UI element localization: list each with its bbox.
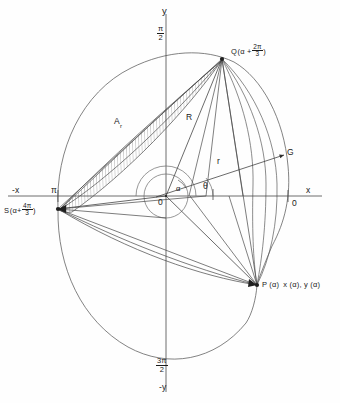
- axes-group: [8, 14, 322, 392]
- axis-label-x-left: -x: [12, 186, 19, 195]
- chord-SP: [58, 209, 257, 285]
- alpha-angle-label: α: [176, 185, 181, 193]
- axis-label-zero-right: 0: [292, 199, 297, 208]
- point-marker-Q: [220, 57, 224, 61]
- outer-curve-lower-left: [58, 209, 257, 359]
- p-fan-group: [190, 196, 257, 285]
- point-label-Q-suffix: ): [263, 48, 266, 56]
- inner-lobe-curves: [222, 59, 277, 285]
- axis-label-3pi-over-2: 3π 2: [156, 357, 168, 374]
- point-label-Q-prefix: (α +: [238, 48, 252, 56]
- axis-label-x-right: x: [306, 186, 310, 195]
- hatched-area-shape: [59, 60, 222, 212]
- diagram-canvas: [0, 0, 340, 403]
- point-label-Q-name: Q: [231, 48, 237, 56]
- axis-label-pi-left: π: [51, 186, 57, 195]
- radius-R-label: R: [186, 113, 192, 122]
- point-label-P-coords: x (α), y (α): [283, 281, 320, 289]
- point-label-P: P (α) x (α), y (α): [262, 281, 320, 289]
- point-label-G: G: [287, 148, 294, 157]
- point-label-S-den: 3: [22, 209, 33, 217]
- point-label-Q-den: 3: [252, 50, 263, 58]
- hatched-area-label: Ar: [114, 117, 122, 128]
- hatched-area-base: A: [114, 116, 120, 126]
- radii-group: [58, 59, 284, 285]
- q-fan-group: [189, 59, 243, 196]
- three-pi-over-2-denominator: 2: [156, 365, 168, 374]
- point-label-S-name: S: [4, 207, 9, 215]
- origin-label: 0: [158, 198, 163, 207]
- theta-angle-label: θ: [203, 182, 208, 191]
- p-fan-1: [190, 196, 257, 285]
- point-markers: [56, 57, 259, 287]
- point-label-S-prefix: (α+: [10, 207, 22, 215]
- point-label-Q: Q (α + 2π 3 ): [231, 44, 266, 59]
- axis-label-y-top: y: [162, 6, 167, 16]
- point-label-Q-num: 2π: [252, 44, 263, 51]
- point-label-S: S (α+ 4π 3 ): [4, 203, 36, 218]
- lobe-curve-outer: [222, 59, 277, 285]
- hatched-area-region: [59, 60, 222, 212]
- lobe-curve-mid: [222, 59, 266, 285]
- axis-label-pi-over-2: π 2: [157, 25, 164, 42]
- point-label-S-num: 4π: [22, 203, 33, 210]
- radius-r-label: r: [217, 157, 220, 166]
- pi-over-2-denominator: 2: [157, 33, 164, 42]
- point-label-S-suffix: ): [33, 207, 36, 215]
- point-label-P-name: P (α): [262, 281, 279, 289]
- geometric-diagram-figure: y π 2 3π 2 -y -x π x 0 0 α θ R r G Ar: [0, 0, 340, 403]
- hatched-area-subscript: r: [120, 123, 122, 129]
- outer-curve-upper-right: [234, 62, 289, 246]
- chord-SQ: [58, 59, 222, 209]
- point-marker-O: [165, 195, 167, 197]
- three-pi-over-2-numerator: 3π: [156, 357, 168, 365]
- axis-label-y-bottom: -y: [159, 383, 166, 392]
- pi-over-2-numerator: π: [157, 25, 164, 33]
